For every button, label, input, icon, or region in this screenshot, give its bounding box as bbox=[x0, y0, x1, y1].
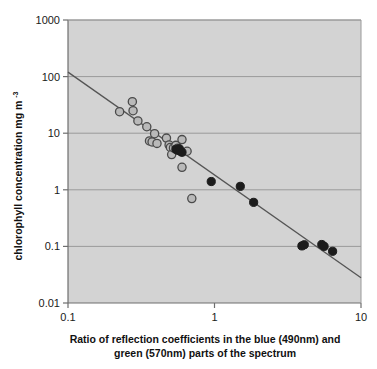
plot-area bbox=[68, 20, 361, 303]
data-point-filled bbox=[178, 148, 186, 156]
x-axis-title-line2: green (570nm) parts of the spectrum bbox=[114, 347, 296, 359]
y-axis-title-text: chlorophyll concentration mg m bbox=[12, 98, 24, 261]
data-point-filled bbox=[320, 242, 328, 250]
data-point-filled bbox=[250, 198, 258, 206]
data-point-open bbox=[115, 108, 123, 116]
y-tick-label: 100 bbox=[42, 71, 60, 83]
y-tick-label: 0.01 bbox=[39, 297, 60, 309]
data-point-open bbox=[129, 107, 137, 115]
data-point-open bbox=[134, 117, 142, 125]
scatter-plot: 0.010.11101001000 0.1110 chlorophyll con… bbox=[0, 0, 377, 369]
data-point-filled bbox=[207, 177, 215, 185]
data-point-open bbox=[188, 194, 196, 202]
data-point-open bbox=[178, 136, 186, 144]
data-point-filled bbox=[236, 182, 244, 190]
x-tick-label: 10 bbox=[355, 311, 367, 323]
x-tick-label: 1 bbox=[211, 311, 217, 323]
data-point-filled bbox=[300, 241, 308, 249]
y-tick-label: 10 bbox=[48, 127, 60, 139]
x-axis-title-line1: Ratio of reflection coefficients in the … bbox=[70, 333, 341, 345]
y-axis-title-superscript: -3 bbox=[12, 91, 19, 97]
plot-background bbox=[68, 20, 361, 303]
x-tick-label: 0.1 bbox=[60, 311, 75, 323]
data-point-open bbox=[178, 163, 186, 171]
data-point-open bbox=[153, 139, 161, 147]
y-tick-label: 0.1 bbox=[45, 240, 60, 252]
data-point-filled bbox=[329, 247, 337, 255]
chart-figure: 0.010.11101001000 0.1110 chlorophyll con… bbox=[0, 0, 377, 369]
y-tick-label: 1000 bbox=[36, 14, 60, 26]
data-point-open bbox=[128, 98, 136, 106]
data-point-open bbox=[150, 130, 158, 138]
y-tick-label: 1 bbox=[54, 184, 60, 196]
y-axis-title: chlorophyll concentration mg m -3 bbox=[12, 91, 24, 260]
data-point-open bbox=[143, 123, 151, 131]
svg-text:chlorophyll concentration mg m: chlorophyll concentration mg m -3 bbox=[12, 91, 24, 260]
